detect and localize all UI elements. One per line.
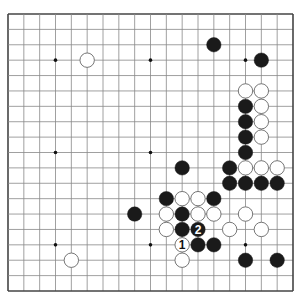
black-stone bbox=[238, 99, 252, 113]
white-stone bbox=[254, 84, 268, 98]
star-point bbox=[54, 243, 58, 247]
white-stone bbox=[80, 53, 94, 67]
star-point bbox=[244, 58, 248, 62]
white-stone bbox=[238, 161, 252, 175]
white-stone bbox=[159, 207, 173, 221]
black-stone bbox=[254, 53, 268, 67]
white-stone bbox=[254, 222, 268, 236]
white-stone bbox=[191, 207, 205, 221]
star-point bbox=[149, 58, 153, 62]
black-stone bbox=[270, 253, 284, 267]
star-point bbox=[149, 151, 153, 155]
black-stone bbox=[222, 161, 236, 175]
black-stone: 2 bbox=[191, 222, 205, 237]
white-stone bbox=[159, 222, 173, 236]
black-stone bbox=[175, 222, 189, 236]
white-stone bbox=[254, 161, 268, 175]
black-stone bbox=[175, 207, 189, 221]
white-stone: 1 bbox=[175, 238, 189, 253]
black-stone bbox=[191, 238, 205, 252]
star-point bbox=[54, 151, 58, 155]
move-number-label: 2 bbox=[195, 223, 202, 237]
white-stone bbox=[254, 130, 268, 144]
white-stone bbox=[254, 99, 268, 113]
black-stone bbox=[254, 176, 268, 190]
black-stone bbox=[238, 130, 252, 144]
go-board: 21 bbox=[0, 0, 303, 306]
white-stone bbox=[191, 191, 205, 205]
black-stone bbox=[238, 176, 252, 190]
black-stone bbox=[238, 115, 252, 129]
white-stone bbox=[175, 191, 189, 205]
black-stone bbox=[207, 38, 221, 52]
black-stone bbox=[127, 207, 141, 221]
white-stone bbox=[175, 253, 189, 267]
star-point bbox=[149, 243, 153, 247]
black-stone bbox=[159, 191, 173, 205]
black-stone bbox=[270, 176, 284, 190]
white-stone bbox=[238, 207, 252, 221]
star-point bbox=[54, 58, 58, 62]
black-stone bbox=[238, 253, 252, 267]
black-stone bbox=[175, 161, 189, 175]
star-point bbox=[244, 243, 248, 247]
white-stone bbox=[238, 84, 252, 98]
black-stone bbox=[207, 238, 221, 252]
white-stone bbox=[64, 253, 78, 267]
black-stone bbox=[222, 176, 236, 190]
white-stone bbox=[254, 115, 268, 129]
black-stone bbox=[238, 145, 252, 159]
move-number-label: 1 bbox=[179, 238, 186, 252]
white-stone bbox=[207, 207, 221, 221]
black-stone bbox=[207, 191, 221, 205]
white-stone bbox=[222, 222, 236, 236]
white-stone bbox=[270, 161, 284, 175]
